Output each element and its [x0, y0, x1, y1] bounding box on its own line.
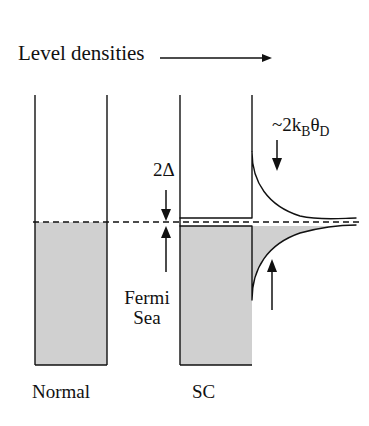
- figure-title: Level densities: [18, 42, 145, 64]
- sc-fermi-sea-fill: [180, 225, 356, 365]
- debye-energy-label: ~2kBθD: [272, 115, 329, 139]
- sc-peak-pointer-head: [267, 259, 277, 272]
- sc-panel-label: SC: [192, 382, 215, 402]
- sc-upper-coherence-peak: [180, 152, 356, 219]
- level-densities-arrow-head: [262, 54, 272, 62]
- fermi-sea-label: FermiSea: [118, 288, 176, 328]
- level-density-figure: Level densities 2Δ ~2kBθD FermiSea Norma…: [0, 0, 369, 426]
- gap-label: 2Δ: [153, 160, 175, 180]
- debye-subscript-d: D: [320, 124, 330, 139]
- normal-fermi-sea-fill: [35, 222, 107, 365]
- fermi-sea-line-2: Sea: [133, 307, 160, 328]
- debye-theta: θ: [310, 114, 319, 135]
- gap-arrow-head: [161, 209, 171, 221]
- debye-arrow-head: [272, 158, 282, 171]
- normal-panel-label: Normal: [32, 382, 90, 402]
- fermi-sea-arrow-head: [161, 226, 171, 238]
- fermi-sea-line-1: Fermi: [124, 287, 169, 308]
- debye-prefix: ~2k: [272, 114, 301, 135]
